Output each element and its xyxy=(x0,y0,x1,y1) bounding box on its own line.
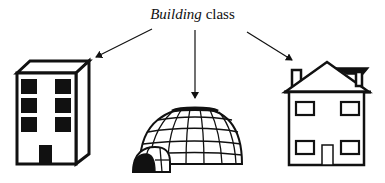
igloo-icon xyxy=(133,108,242,172)
building-class-diagram: Building class xyxy=(0,0,385,183)
arrow-to-house xyxy=(247,32,292,60)
diagram-canvas xyxy=(0,0,385,183)
door xyxy=(39,145,52,164)
office-building-icon xyxy=(17,61,89,164)
house-icon xyxy=(284,62,371,165)
arrows xyxy=(96,29,292,98)
arrow-to-office-building xyxy=(96,29,152,57)
door xyxy=(322,145,333,165)
